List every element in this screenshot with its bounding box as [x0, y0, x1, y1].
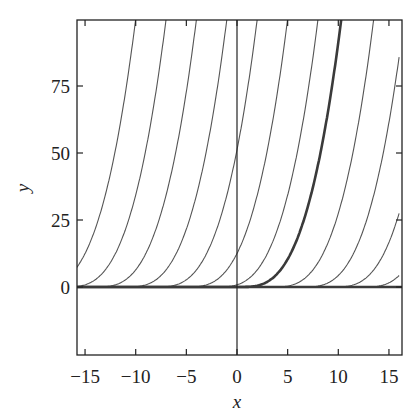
x-tick-label: 5 [283, 366, 293, 387]
solution-curve [75, 11, 289, 287]
chart: −15−10−5051015 0255075 x y [0, 0, 419, 415]
solution-curve [75, 11, 375, 287]
y-tick-label: 25 [51, 210, 70, 231]
solution-curve [75, 11, 137, 270]
x-axis-ticks: −15−10−5051015 [70, 20, 398, 387]
x-tick-label: 15 [379, 366, 398, 387]
solution-curve [75, 11, 259, 287]
y-tick-label: 75 [51, 76, 70, 97]
solution-curve [75, 11, 228, 287]
y-axis-ticks: 0255075 [51, 76, 402, 298]
plot-frame [77, 20, 402, 355]
x-tick-label: 10 [329, 366, 348, 387]
x-tick-label: −15 [70, 366, 100, 387]
x-tick-label: −10 [121, 366, 151, 387]
y-tick-label: 50 [51, 143, 70, 164]
x-tick-label: −5 [176, 366, 196, 387]
x-axis-label: x [232, 391, 242, 412]
y-axis-label: y [12, 183, 33, 194]
y-tick-label: 0 [61, 277, 71, 298]
x-tick-label: 0 [232, 366, 242, 387]
